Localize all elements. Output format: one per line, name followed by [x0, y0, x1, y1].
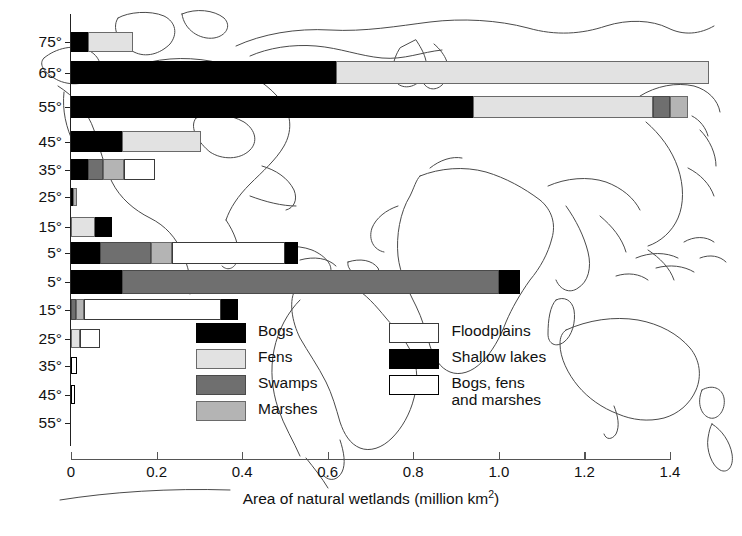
bar-3-segment-bogs: [71, 131, 122, 152]
bar-4: [71, 159, 155, 180]
bar-9-segment-floodplains: [84, 299, 221, 320]
y-tick-5: [65, 197, 71, 198]
bar-7-segment-marshes: [151, 242, 172, 264]
x-tick-label-2: 0.4: [232, 463, 253, 480]
bar-6: [71, 217, 112, 237]
legend-item-marshes: Marshes: [196, 400, 317, 421]
y-tick-label-6: 15°: [0, 218, 62, 236]
bar-7-segment-swamps: [100, 242, 150, 264]
bar-12: [71, 385, 75, 404]
legend-label: Swamps: [258, 374, 317, 391]
y-tick-label-13: 55°: [0, 414, 62, 432]
y-tick-3: [65, 142, 71, 143]
y-tick-label-7: 5°: [0, 244, 62, 262]
bar-4-segment-swamps: [88, 159, 103, 180]
x-tick-2: [242, 452, 243, 460]
y-tick-label-5: 25°: [0, 188, 62, 206]
bar-0-segment-fens: [88, 32, 133, 52]
x-axis-title-base: Area of natural wetlands (million km: [243, 490, 489, 507]
legend-item-bogs: Bogs: [196, 322, 317, 343]
x-tick-3: [328, 452, 329, 460]
x-tick-label-3: 0.6: [317, 463, 338, 480]
y-tick-label-3: 45°: [0, 133, 62, 151]
legend-swatch-icon: [196, 349, 246, 369]
y-tick-label-4: 35°: [0, 161, 62, 179]
y-tick-label-1: 65°: [0, 64, 62, 82]
bar-0: [71, 32, 133, 52]
bar-11-segment-bogs_fens_marshes: [71, 357, 77, 374]
y-tick-label-8: 5°: [0, 273, 62, 291]
x-tick-label-4: 0.8: [403, 463, 424, 480]
legend-item-bogs-fens-and-marshes: Bogs, fens and marshes: [389, 374, 546, 408]
y-tick-label-11: 35°: [0, 357, 62, 375]
y-tick-10: [65, 339, 71, 340]
bar-4-segment-bogs: [71, 159, 88, 180]
y-tick-6: [65, 227, 71, 228]
x-tick-4: [413, 452, 414, 460]
y-tick-label-10: 25°: [0, 330, 62, 348]
legend-item-swamps: Swamps: [196, 374, 317, 395]
bar-6-segment-shallow_lakes: [95, 217, 112, 237]
legend-label: Fens: [258, 348, 292, 365]
y-tick-label-9: 15°: [0, 301, 62, 319]
legend-label: Shallow lakes: [451, 348, 546, 365]
legend-label: Floodplains: [451, 322, 530, 339]
bar-9-segment-shallow_lakes: [221, 299, 238, 320]
bar-9-segment-marshes: [76, 299, 84, 320]
bar-0-segment-bogs: [71, 32, 88, 52]
bar-7-segment-bogs: [71, 242, 100, 264]
y-axis-line: [70, 14, 71, 446]
legend-swatch-icon: [389, 323, 439, 343]
y-tick-7: [65, 253, 71, 254]
bar-8: [71, 270, 520, 294]
bar-3: [71, 131, 201, 152]
x-tick-0: [71, 452, 72, 460]
legend-item-floodplains: Floodplains: [389, 322, 546, 343]
bar-7-segment-floodplains: [172, 242, 285, 264]
legend-swatch-icon: [389, 375, 439, 395]
x-tick-label-0: 0: [67, 463, 75, 480]
bar-3-segment-fens: [122, 131, 201, 152]
legend-swatch-icon: [389, 349, 439, 369]
x-axis-title-tail: ): [494, 490, 499, 507]
bar-7: [71, 242, 298, 264]
legend-item-shallow-lakes: Shallow lakes: [389, 348, 546, 369]
legend-label: Marshes: [258, 400, 317, 417]
legend-label: Bogs: [258, 322, 293, 339]
bar-10-segment-floodplains: [80, 329, 99, 348]
bar-2-segment-fens: [473, 96, 653, 118]
y-tick-label-2: 55°: [0, 98, 62, 116]
x-axis-line: [71, 459, 671, 460]
legend-swatch-icon: [196, 401, 246, 421]
bar-5: [71, 188, 77, 206]
bar-1: [71, 61, 709, 84]
x-tick-6: [584, 452, 585, 460]
bar-4-segment-floodplains: [124, 159, 155, 180]
bar-10: [71, 329, 100, 348]
legend-column-1: FloodplainsShallow lakesBogs, fens and m…: [389, 322, 546, 421]
y-tick-2: [65, 107, 71, 108]
x-tick-1: [157, 452, 158, 460]
legend-column-0: BogsFensSwampsMarshes: [196, 322, 317, 421]
bar-6-segment-fens: [71, 217, 95, 237]
x-tick-label-5: 1.0: [488, 463, 509, 480]
bar-8-segment-swamps: [122, 270, 499, 294]
y-tick-13: [65, 423, 71, 424]
y-tick-12: [65, 395, 71, 396]
legend-item-fens: Fens: [196, 348, 317, 369]
x-tick-label-1: 0.2: [146, 463, 167, 480]
legend: BogsFensSwampsMarshesFloodplainsShallow …: [196, 322, 636, 421]
bar-8-segment-bogs: [71, 270, 122, 294]
bar-1-segment-bogs: [71, 61, 336, 84]
x-tick-label-7: 1.4: [660, 463, 681, 480]
y-tick-label-12: 45°: [0, 386, 62, 404]
bar-8-segment-shallow_lakes: [499, 270, 520, 294]
y-tick-11: [65, 366, 71, 367]
bar-5-segment-marshes: [73, 188, 77, 206]
bar-2-segment-bogs: [71, 96, 473, 118]
x-tick-label-6: 1.2: [574, 463, 595, 480]
y-tick-4: [65, 170, 71, 171]
x-tick-7: [670, 452, 671, 460]
bar-2-segment-swamps: [653, 96, 670, 118]
bar-1-segment-fens: [336, 61, 708, 84]
